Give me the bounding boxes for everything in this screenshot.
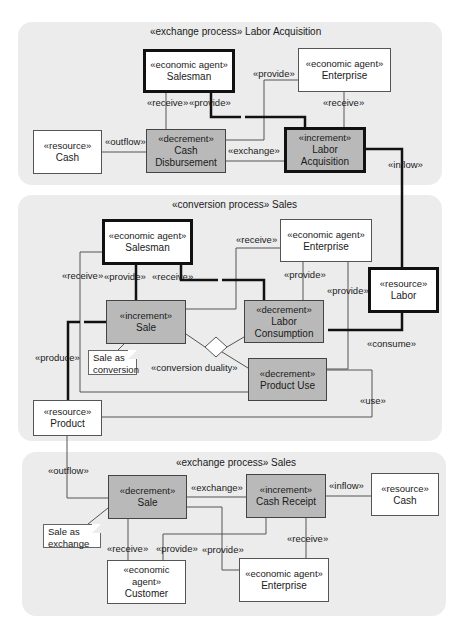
p3-label-outflow: «outflow» (48, 465, 89, 476)
stereotype: «decrement» (158, 133, 213, 145)
element-name: Enterprise (322, 70, 368, 82)
stereotype: «resource» (44, 140, 92, 152)
p2-label-conversion-duality: «conversion duality» (151, 362, 238, 373)
p2-label-provide-enterprise1: «provide» (284, 269, 326, 280)
panel-title-conversion-sales: «conversion process» Sales (172, 199, 297, 210)
panel-title-labor-acquisition: «exchange process» Labor Acquisition (150, 26, 321, 37)
p2-sale-increment-event[interactable]: «increment» Sale (106, 300, 186, 344)
stereotype: «resource» (381, 483, 429, 495)
stereotype: «increment» (120, 310, 172, 322)
element-name: Sale (136, 322, 156, 334)
stereotype: «economic agent» (150, 59, 228, 71)
p2-labor-resource[interactable]: «resource» Labor (368, 267, 439, 313)
stereotype: «resource» (44, 406, 92, 418)
panel-stereotype: «exchange process» (176, 457, 268, 468)
element-name: Customer (125, 588, 168, 600)
stereotype: «economic agent» (245, 568, 323, 580)
p1-cash-resource[interactable]: «resource» Cash (33, 130, 102, 174)
p1-label-receive-salesman: «receive» (147, 97, 188, 108)
note-line: Sale as (93, 352, 132, 364)
element-name: Labor (391, 290, 417, 302)
p3-sale-decrement-event[interactable]: «decrement» Sale (108, 475, 187, 519)
stereotype: «decrement» (120, 485, 175, 497)
p2-note-sale-as-conversion: Sale as conversion (88, 350, 137, 375)
p2-label-receive-mid: «receive» (152, 271, 193, 282)
p2-receive-mid-line (181, 265, 264, 300)
p1-cash-disbursement-event[interactable]: «decrement» Cash Disbursement (146, 129, 226, 173)
stereotype: «increment» (260, 484, 312, 496)
panel-stereotype: «exchange process» (150, 26, 242, 37)
stereotype: «increment» (299, 132, 351, 144)
duality-line-labor (227, 337, 244, 347)
p1-label-provide-salesman: «provide» (189, 97, 231, 108)
p3-customer-agent[interactable]: «economic agent» Customer (107, 560, 186, 604)
p2-label-receive-left: «receive» (62, 270, 103, 281)
note-fold-icon (128, 350, 137, 359)
p1-label-inflow: «inflow» (388, 159, 423, 170)
note-fold-icon (92, 524, 101, 533)
element-name: Consumption (255, 328, 314, 340)
p2-salesman-agent[interactable]: «economic agent» Salesman (102, 219, 193, 265)
p2-use-line (102, 370, 372, 417)
p2-labor-consumption-event[interactable]: «decrement» Labor Consumption (244, 300, 324, 343)
p2-product-use-event[interactable]: «decrement» Product Use (248, 358, 327, 401)
p2-enterprise-agent[interactable]: «economic agent» Enterprise (280, 219, 372, 262)
p1-enterprise-agent[interactable]: «economic agent» Enterprise (298, 48, 391, 92)
stereotype: «resource» (380, 278, 428, 290)
element-name: Cash (56, 152, 79, 164)
p3-cash-resource[interactable]: «resource» Cash (371, 473, 439, 516)
element-name: Labor (312, 144, 338, 156)
p1-label-exchange: «exchange» (228, 145, 280, 156)
p3-provide-enterprise-line (187, 507, 239, 570)
stereotype: «economic agent» (287, 229, 365, 241)
element-name: Cash Receipt (256, 496, 316, 508)
p2-product-resource[interactable]: «resource» Product (33, 400, 102, 436)
panel-name: Labor Acquisition (245, 26, 321, 37)
element-name: Cash (393, 495, 416, 507)
duality-line-sale (186, 334, 205, 347)
p2-label-consume: «consume» (367, 338, 416, 349)
element-name: Salesman (167, 71, 211, 83)
p1-label-outflow: «outflow» (105, 136, 146, 147)
p3-label-exchange: «exchange» (191, 482, 243, 493)
p3-enterprise-agent[interactable]: «economic agent» Enterprise (239, 558, 329, 602)
element-name: Labor (271, 316, 297, 328)
p3-note-anchor (88, 508, 108, 524)
p3-label-receive-customer: «receive» (107, 543, 148, 554)
element-name: Disbursement (155, 157, 217, 169)
p2-label-use: «use» (360, 395, 386, 406)
element-name: Cash (174, 145, 197, 157)
p1-label-provide-enterprise: «provide» (253, 68, 295, 79)
p3-note-sale-as-exchange: Sale as exchange (43, 524, 101, 548)
p2-label-provide-enterprise2: «provide» (327, 285, 369, 296)
p2-label-provide: «provide» (104, 271, 146, 282)
stereotype: «economic agent» (306, 58, 384, 70)
p2-label-produce: «produce» (35, 352, 80, 363)
element-name: Product (50, 418, 84, 430)
panel-name: Sales (271, 457, 296, 468)
panel-stereotype: «conversion process» (172, 199, 269, 210)
stereotype: «decrement» (260, 368, 315, 380)
p2-provide-enterprise2-line (327, 262, 348, 369)
duality-diamond (205, 337, 227, 357)
p1-salesman-agent[interactable]: «economic agent» Salesman (143, 49, 235, 93)
p2-consume-line (324, 312, 402, 330)
panel-title-exchange-sales: «exchange process» Sales (176, 457, 296, 468)
p1-labor-acquisition-event[interactable]: «increment» Labor Acquisition (284, 127, 366, 173)
p2-label-receive-enterprise: «receive» (236, 234, 277, 245)
p1-label-receive-enterprise: «receive» (323, 97, 364, 108)
element-name: Product Use (260, 380, 315, 392)
stereotype: «economic agent» (109, 230, 187, 242)
element-name: Sale (137, 497, 157, 509)
stereotype: «decrement» (256, 304, 311, 316)
p3-label-provide-customer: «provide» (156, 543, 198, 554)
p3-label-receive-enterprise: «receive» (287, 533, 328, 544)
p3-label-inflow: «inflow» (329, 480, 364, 491)
element-name: Enterprise (261, 580, 307, 592)
note-line: conversion (93, 364, 132, 376)
note-line: Sale as (48, 526, 96, 538)
panel-name: Sales (272, 199, 297, 210)
note-line: exchange (48, 538, 96, 550)
p3-label-provide-enterprise: «provide» (202, 544, 244, 555)
p3-cash-receipt-event[interactable]: «increment» Cash Receipt (246, 474, 326, 518)
